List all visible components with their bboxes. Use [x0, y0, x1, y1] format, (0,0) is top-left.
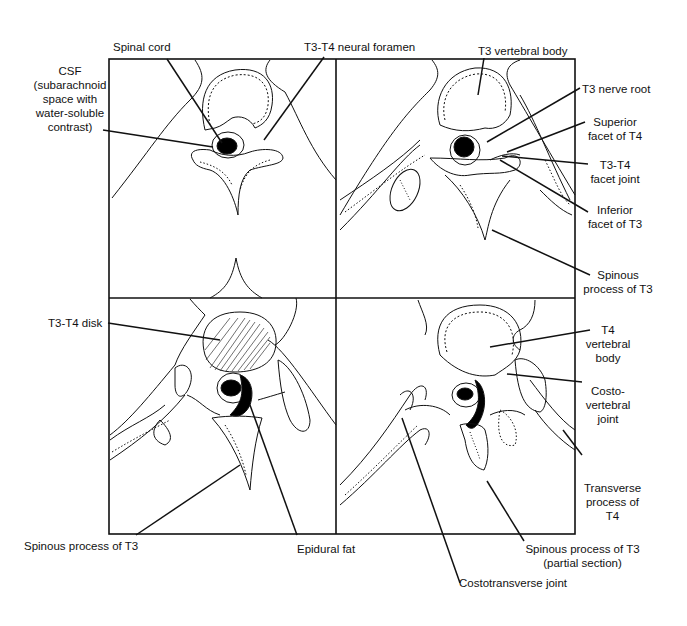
label-spinous-tr-line2: process of T3 — [578, 282, 658, 296]
label-inferior-facet-line2: facet of T3 — [580, 217, 650, 231]
label-spinous-br-line1: Spinous process of T3 — [520, 542, 645, 556]
leader-lines — [103, 57, 590, 583]
label-transverse-line3: T4 — [575, 509, 650, 523]
panel-bottom-left — [110, 298, 336, 490]
label-transverse-process: Transverse process of T4 — [575, 481, 650, 523]
label-facet-joint-line2: facet joint — [580, 172, 650, 186]
anatomy-figure: Spinal cord T3-T4 neural foramen CSF (su… — [0, 0, 687, 626]
label-inferior-facet-line1: Inferior — [580, 203, 650, 217]
label-epidural-fat: Epidural fat — [297, 542, 355, 556]
label-t4-body-line3: body — [578, 351, 638, 365]
label-t3-t4-disk: T3-T4 disk — [48, 316, 102, 330]
label-csf-line4: water-soluble — [30, 106, 110, 120]
label-superior-facet: Superior facet of T4 — [580, 115, 650, 143]
label-costovertebral-line2: vertebral — [578, 398, 638, 412]
label-facet-joint-line1: T3-T4 — [580, 158, 650, 172]
label-costovertebral-joint: Costo- vertebral joint — [578, 384, 638, 426]
panel-frame — [109, 59, 575, 534]
label-inferior-facet: Inferior facet of T3 — [580, 203, 650, 231]
label-transverse-line2: process of — [575, 495, 650, 509]
label-costovertebral-line1: Costo- — [578, 384, 638, 398]
label-neural-foramen: T3-T4 neural foramen — [304, 40, 415, 54]
label-spinous-process-partial: Spinous process of T3 (partial section) — [520, 542, 645, 570]
label-t4-body-line1: T4 — [578, 323, 638, 337]
label-spinal-cord: Spinal cord — [113, 40, 171, 54]
label-superior-facet-line1: Superior — [580, 115, 650, 129]
label-csf-line3: space with — [30, 92, 110, 106]
label-facet-joint: T3-T4 facet joint — [580, 158, 650, 186]
panel-bottom-right — [340, 300, 575, 505]
label-costotransverse-joint: Costotransverse joint — [459, 576, 567, 590]
label-t4-body-line2: vertebral — [578, 337, 638, 351]
label-spinous-tr-line1: Spinous — [578, 268, 658, 282]
label-t3-nerve-root: T3 nerve root — [582, 82, 650, 96]
label-csf-line5: contrast) — [30, 120, 110, 134]
label-spinous-br-line2: (partial section) — [520, 556, 645, 570]
label-t3-vertebral-body: T3 vertebral body — [478, 44, 568, 58]
panel-top-left — [112, 60, 336, 298]
label-csf-line2: (subarachnoid — [30, 78, 110, 92]
label-spinous-process-bottom-left: Spinous process of T3 — [24, 539, 138, 553]
label-transverse-line1: Transverse — [575, 481, 650, 495]
panel-top-right — [340, 60, 575, 240]
label-superior-facet-line2: facet of T4 — [580, 129, 650, 143]
label-spinous-process-top-right: Spinous process of T3 — [578, 268, 658, 296]
label-csf: CSF (subarachnoid space with water-solub… — [30, 64, 110, 134]
label-csf-line1: CSF — [30, 64, 110, 78]
label-t4-vertebral-body: T4 vertebral body — [578, 323, 638, 365]
label-costovertebral-line3: joint — [578, 412, 638, 426]
